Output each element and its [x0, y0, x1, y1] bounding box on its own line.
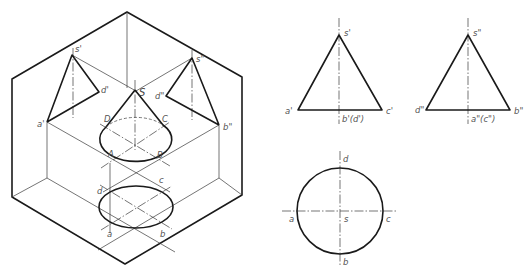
label-front-apex: s'	[344, 28, 351, 38]
label-B: B	[157, 150, 163, 160]
label-d-side: d"	[155, 91, 164, 101]
label-c-floor: c	[159, 175, 164, 185]
label-front-right: c'	[386, 106, 393, 116]
front-view: s' a' c' b'(d')	[285, 18, 393, 124]
top-view: d a c b s	[282, 151, 398, 267]
label-top-d: d	[343, 154, 349, 164]
label-D: D	[104, 114, 111, 124]
floor-ellipse-view: d c a b	[97, 175, 173, 239]
cone-projection-diagram: s' d' a' s" d" b" S D C A B d c a b s'	[0, 0, 527, 276]
label-front-bottom: b'(d')	[342, 114, 364, 124]
label-top-b: b	[343, 257, 348, 267]
label-side-left: d"	[415, 105, 424, 115]
label-b-side: b"	[223, 122, 232, 132]
label-s-front: s'	[75, 44, 82, 54]
label-C: C	[162, 114, 168, 124]
floor-edge-left	[12, 178, 47, 197]
label-s-side: s"	[196, 54, 204, 64]
front-view-triangle	[298, 35, 382, 110]
left-wall-cone-view: s' d' a'	[37, 44, 109, 129]
label-S: S	[139, 87, 146, 98]
label-a-floor: a	[107, 229, 112, 239]
side-view: s" d" b" a"(c")	[415, 18, 523, 124]
label-side-apex: s"	[473, 28, 481, 38]
cone-base-hidden	[106, 117, 163, 127]
projection-box	[12, 12, 242, 264]
label-side-bottom: a"(c")	[471, 114, 495, 124]
label-d-floor: d	[97, 186, 103, 196]
label-front-left: a'	[285, 106, 293, 116]
label-top-s: s	[344, 214, 349, 224]
label-a-front: a'	[37, 119, 45, 129]
label-d-front: d'	[101, 85, 109, 95]
right-wall-triangle	[166, 58, 219, 125]
label-b-floor: b	[160, 229, 165, 239]
label-A: A	[107, 149, 114, 159]
floor-edge-right	[219, 178, 242, 195]
label-top-a: a	[289, 214, 294, 224]
label-side-right: b"	[514, 106, 523, 116]
label-top-c: c	[386, 214, 391, 224]
